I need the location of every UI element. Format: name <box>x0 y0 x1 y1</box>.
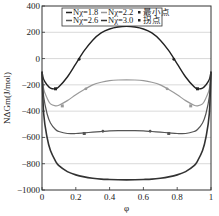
inflection-point-marker <box>85 87 88 90</box>
inflection-point-marker <box>166 87 169 90</box>
gridlines <box>42 32 211 163</box>
inflection-point-marker <box>78 58 81 61</box>
minimum-point-marker <box>54 87 57 90</box>
x-tick-label: 0.4 <box>104 192 116 202</box>
minimum-point-marker <box>61 104 64 107</box>
y-tick-label: −200 <box>21 80 40 90</box>
minimum-point-marker <box>196 87 199 90</box>
legend-label: Nχ=2.6 <box>73 15 98 25</box>
y-tick-label: −1000 <box>17 185 41 195</box>
x-tick-label: 0.6 <box>138 192 150 202</box>
x-tick-label: 0.8 <box>172 192 184 202</box>
y-tick-label: −600 <box>21 132 40 142</box>
legend-label: 拐点 <box>143 15 161 25</box>
y-tick-label: −800 <box>21 159 40 169</box>
x-tick-label: 1 <box>209 192 214 202</box>
plot-frame <box>42 6 211 190</box>
line-chart: 4002000−200−400−600−800−100000.20.40.60.… <box>0 0 219 216</box>
minimum-point-marker <box>83 132 86 135</box>
inflection-point-marker <box>149 130 152 133</box>
data-markers <box>54 58 199 135</box>
inflection-point-marker <box>101 130 104 133</box>
x-tick-label: 0.2 <box>70 192 81 202</box>
y-tick-label: −400 <box>21 106 40 116</box>
data-curves <box>42 26 211 180</box>
y-tick-label: 200 <box>27 27 41 37</box>
legend-label: Nχ=3.0 <box>108 15 133 25</box>
legend: Nχ=1.8Nχ=2.2最小点Nχ=2.6Nχ=3.0拐点 <box>62 7 170 26</box>
minimum-point-marker <box>189 104 192 107</box>
x-tick-label: 0 <box>40 192 45 202</box>
x-axis-label: φ <box>124 203 129 213</box>
y-axis-label: NΔGm(J/mol) <box>2 72 12 124</box>
inflection-point-marker <box>172 58 175 61</box>
series-line <box>42 72 211 134</box>
y-tick-label: 0 <box>36 54 41 64</box>
minimum-point-marker <box>167 132 170 135</box>
y-tick-label: 400 <box>27 1 41 11</box>
